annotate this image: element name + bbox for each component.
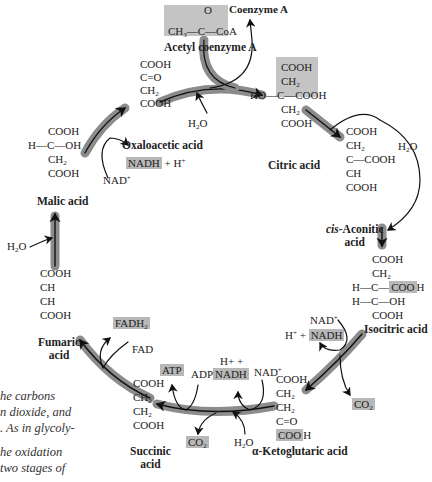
citric-acid-structure: COOH CH2 HO—C—COOH CH2 COOH bbox=[250, 60, 326, 130]
adp: ADP bbox=[191, 368, 213, 381]
h2o-4: H2O bbox=[7, 240, 26, 253]
h2o-3: H2O bbox=[234, 436, 253, 449]
acetyl-coa-formula: CH3—C—CoA bbox=[168, 25, 237, 38]
h2o-2: H2O bbox=[398, 140, 417, 153]
oxaloacetic-acid-structure: COOH C=O CH2 COOH bbox=[140, 58, 171, 110]
isocitric-acid-label: Isocitric acid bbox=[364, 323, 428, 336]
acetyl-coa-label: Acetyl coenzyme A bbox=[164, 41, 257, 54]
succinic-acid-label: Succinicacid bbox=[130, 445, 171, 471]
nadh-3: NADH bbox=[213, 368, 249, 381]
isocitric-acid-structure: COOH CH2 H—C—COOH H—C—OH COOH bbox=[352, 252, 424, 322]
caption-text: he carbons n dioxide, and . As in glycol… bbox=[0, 388, 75, 476]
co2-1: CO2 bbox=[352, 398, 375, 411]
alpha-ketoglutaric-acid-label: α-Ketoglutaric acid bbox=[252, 445, 348, 458]
malic-acid-label: Malic acid bbox=[37, 195, 88, 208]
malic-acid-structure: COOH H—C—OH CH2 COOH bbox=[28, 124, 81, 180]
h2o-1: H2O bbox=[188, 117, 207, 130]
fad: FAD bbox=[132, 343, 153, 356]
nadh-1: NADH + H+ bbox=[126, 157, 185, 170]
nad-plus-1: NAD+ bbox=[103, 174, 131, 187]
cis-aconitic-acid-label: cis-Aconiticacid bbox=[326, 223, 384, 249]
coenzyme-a-label: Coenzyme A bbox=[229, 3, 288, 16]
succinic-acid-structure: COOH CH2 CH2 COOH bbox=[133, 376, 164, 432]
nadh-2: H+ + NADH bbox=[285, 329, 344, 342]
fumaric-acid-label: Fumaricacid bbox=[38, 336, 80, 362]
co2-2: CO2 bbox=[186, 436, 209, 449]
alpha-ketoglutaric-acid-structure: COOH CH2 CH2 C=O COOH bbox=[276, 372, 311, 442]
acetyl-coa-carbonyl-o: O bbox=[204, 4, 212, 17]
fumaric-acid-structure: COOH CH CH COOH bbox=[40, 266, 71, 322]
nad-plus-2: NAD+ bbox=[310, 314, 338, 327]
fadh2: FADH2 bbox=[113, 317, 150, 330]
oxaloacetic-acid-label: Oxaloacetic acid bbox=[122, 139, 203, 152]
nad-plus-3: NAD+ bbox=[254, 366, 282, 379]
citric-acid-label: Citric acid bbox=[268, 159, 320, 172]
cis-aconitic-acid-structure: COOH CH2 C—COOH CH COOH bbox=[346, 124, 396, 194]
h-plus-3: H+ + bbox=[220, 355, 243, 368]
